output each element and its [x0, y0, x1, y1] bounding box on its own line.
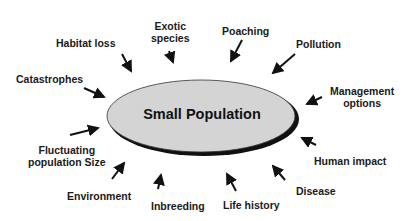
arrow-life-history [227, 174, 236, 191]
label-human-impact: Human impact [314, 155, 386, 167]
arrow-human-impact [302, 138, 316, 145]
arrow-environment [112, 163, 124, 179]
label-life-history: Life history [223, 199, 280, 211]
label-environment: Environment [67, 190, 131, 202]
center-label: Small Population [107, 106, 297, 122]
label-inbreeding: Inbreeding [151, 200, 205, 212]
arrow-exotic-species [169, 51, 173, 62]
arrow-pollution [273, 54, 295, 73]
label-exotic-species: Exotic species [151, 20, 190, 44]
label-fluctuating-population-size: Fluctuating population Size [28, 144, 106, 168]
label-disease: Disease [296, 185, 336, 197]
small-population-diagram: Small Population Habitat loss Exotic spe… [0, 0, 412, 221]
arrow-poaching [231, 40, 242, 61]
label-poaching: Poaching [222, 25, 269, 37]
label-catastrophes: Catastrophes [16, 73, 83, 85]
arrow-catastrophes [84, 88, 104, 97]
label-habitat-loss: Habitat loss [56, 37, 116, 49]
arrow-management-options [307, 97, 322, 104]
label-management-options: Management options [330, 85, 394, 109]
arrow-inbreeding [158, 175, 161, 189]
arrow-habitat-loss [122, 54, 131, 71]
arrow-disease [273, 166, 285, 180]
label-pollution: Pollution [296, 38, 341, 50]
arrow-fluctuating-population-size [70, 128, 98, 135]
